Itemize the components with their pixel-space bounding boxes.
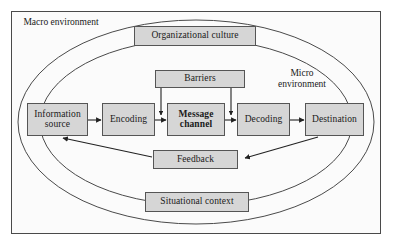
node-decoding[interactable]: Decoding [237, 103, 290, 136]
node-feedback-label: Feedback [177, 155, 214, 165]
node-destination[interactable]: Destination [305, 103, 364, 136]
node-destination-label: Destination [312, 115, 357, 125]
node-organizational-culture[interactable]: Organizational culture [134, 26, 256, 46]
node-situational-context[interactable]: Situational context [145, 192, 249, 212]
micro-environment-label: Micro environment [268, 68, 336, 90]
node-message-channel-line1: Message [179, 110, 214, 120]
node-message-channel[interactable]: Message channel [167, 103, 225, 136]
macro-environment-label: Macro environment [18, 17, 104, 28]
macro-label-line1: Macro [23, 17, 48, 27]
node-information-source[interactable]: Information source [27, 103, 88, 136]
node-encoding-label: Encoding [110, 115, 147, 125]
feedback-to-information-source [63, 138, 152, 157]
node-decoding-label: Decoding [245, 115, 283, 125]
node-information-source-line1: Information [34, 110, 80, 120]
node-situational-context-label: Situational context [160, 197, 233, 207]
node-feedback[interactable]: Feedback [153, 150, 238, 169]
node-information-source-line2: source [34, 120, 80, 130]
feedback-from-destination [245, 137, 318, 158]
diagram-canvas: Macro environment Micro environment Orga… [0, 0, 393, 248]
node-encoding[interactable]: Encoding [102, 103, 155, 136]
node-barriers[interactable]: Barriers [155, 70, 245, 88]
micro-label-line2: environment [278, 79, 326, 89]
node-message-channel-line2: channel [179, 120, 214, 130]
node-barriers-label: Barriers [184, 74, 215, 84]
node-organizational-culture-label: Organizational culture [151, 31, 238, 41]
micro-label-line1: Micro [290, 68, 313, 78]
macro-label-line2: environment [51, 17, 99, 27]
